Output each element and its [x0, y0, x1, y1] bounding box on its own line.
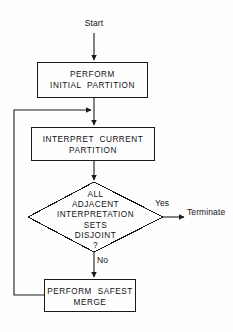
- label-no-branch: No: [97, 256, 117, 265]
- box-perform-initial-partition-label: PERFORM INITIAL PARTITION: [37, 69, 148, 91]
- label-terminate: Terminate: [187, 208, 233, 217]
- flowchart-canvas: Start PERFORM INITIAL PARTITION INTERPRE…: [0, 0, 233, 332]
- label-start: Start: [62, 19, 126, 28]
- flowchart-graphics: [0, 0, 233, 332]
- box-interpret-current-partition-label: INTERPRET CURRENT PARTITION: [31, 134, 155, 156]
- box-perform-safest-merge-label: PERFORM SAFEST MERGE: [44, 286, 136, 308]
- decision-sets-disjoint-label: ALL ADJACENT INTERPRETATION SETS DISJOIN…: [36, 190, 155, 251]
- label-yes-branch: Yes: [155, 199, 179, 208]
